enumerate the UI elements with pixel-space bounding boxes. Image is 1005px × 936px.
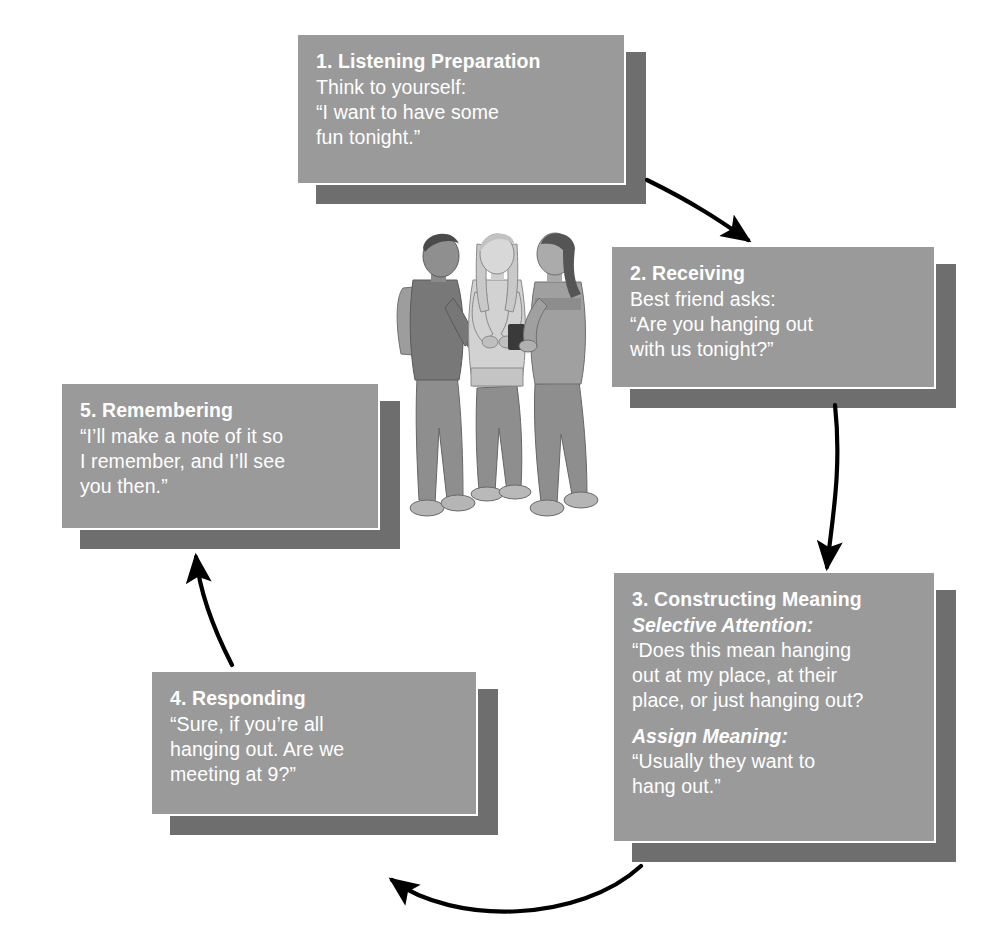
step-3-b-line-2: hang out.” — [632, 774, 918, 799]
step-3-sublabel-2: Assign Meaning: — [632, 724, 918, 749]
step-2-line-1: Best friend asks: — [630, 287, 918, 312]
arrow-4-to-5 — [196, 557, 232, 665]
step-3-a-line-1: “Does this mean hanging — [632, 638, 918, 663]
step-2-title: 2. Receiving — [630, 261, 918, 286]
step-4-title: 4. Responding — [170, 686, 460, 711]
listening-process-diagram: 1. Listening Preparation Think to yourse… — [0, 0, 1005, 936]
step-3-sublabel-1: Selective Attention: — [632, 613, 918, 638]
arrow-1-to-2 — [647, 180, 748, 240]
step-3-b-line-1: “Usually they want to — [632, 749, 918, 774]
step-4-line-1: “Sure, if you’re all — [170, 712, 460, 737]
arrow-3-to-4 — [392, 866, 641, 912]
step-1-title: 1. Listening Preparation — [316, 49, 608, 74]
step-3-a-line-2: out at my place, at their — [632, 663, 918, 688]
step-5-card: 5. Remembering “I’ll make a note of it s… — [60, 382, 380, 530]
step-5-line-2: I remember, and I’ll see — [80, 449, 362, 474]
step-1-line-1: Think to yourself: — [316, 75, 608, 100]
teen-right-with-ponytail — [519, 233, 598, 516]
step-2-card: 2. Receiving Best friend asks: “Are you … — [610, 245, 936, 389]
step-5-line-1: “I’ll make a note of it so — [80, 424, 362, 449]
step-4-line-3: meeting at 9?” — [170, 762, 460, 787]
step-1-line-3: fun tonight.” — [316, 125, 608, 150]
step-1-line-2: “I want to have some — [316, 100, 608, 125]
step-5-title: 5. Remembering — [80, 398, 362, 423]
step-2-line-2: “Are you hanging out — [630, 312, 918, 337]
teen-center-with-phone — [469, 233, 532, 501]
step-2-line-3: with us tonight?” — [630, 337, 918, 362]
step-4-card: 4. Responding “Sure, if you’re all hangi… — [150, 670, 478, 816]
step-5-line-3: you then.” — [80, 474, 362, 499]
three-teens-talking-illustration — [395, 228, 610, 528]
teen-left-with-backpack — [397, 234, 483, 516]
step-3-title: 3. Constructing Meaning — [632, 587, 918, 612]
step-4-line-2: hanging out. Are we — [170, 737, 460, 762]
step-3-card: 3. Constructing Meaning Selective Attent… — [612, 571, 936, 843]
step-3-a-line-3: place, or just hanging out? — [632, 688, 918, 713]
arrow-2-to-3 — [827, 405, 837, 567]
step-1-card: 1. Listening Preparation Think to yourse… — [296, 33, 626, 185]
